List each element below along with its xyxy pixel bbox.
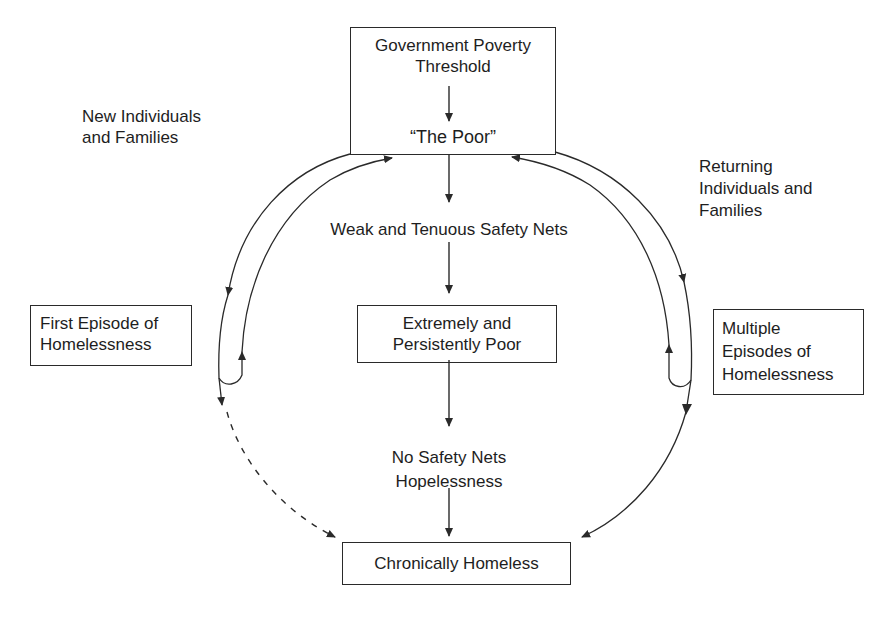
new-entrants-label: New Individuals and Families <box>82 106 201 148</box>
extremely-poor-line1: Extremely and <box>357 313 557 334</box>
chronically-homeless-label: Chronically Homeless <box>342 553 571 574</box>
loop-first-episode <box>219 295 242 384</box>
the-poor-label: “The Poor” <box>350 127 556 148</box>
poverty-threshold-line2: Threshold <box>350 56 556 77</box>
arrowhead-right-down <box>682 404 692 415</box>
arrow-poor-to-multiple-episodes <box>555 152 684 282</box>
returning-entrants-line2: Individuals and <box>699 178 812 200</box>
returning-entrants-label: Returning Individuals and Families <box>699 156 812 222</box>
extremely-poor-line2: Persistently Poor <box>357 334 557 355</box>
returning-entrants-line3: Families <box>699 200 812 222</box>
right-outer-continuation <box>684 282 692 380</box>
first-episode-label: First Episode of Homelessness <box>40 313 158 355</box>
multiple-episodes-line3: Homelessness <box>722 363 834 386</box>
multiple-episodes-line2: Episodes of <box>722 340 834 363</box>
extremely-poor-label: Extremely and Persistently Poor <box>357 313 557 355</box>
no-safety-nets-label: No Safety Nets Hopelessness <box>340 446 558 494</box>
multiple-episodes-line1: Multiple <box>722 317 834 340</box>
new-entrants-line2: and Families <box>82 127 201 148</box>
new-entrants-line1: New Individuals <box>82 106 201 127</box>
poverty-threshold-label: Government Poverty Threshold <box>350 35 556 77</box>
arrow-first-episode-to-chronic <box>227 412 335 537</box>
no-safety-nets-line2: Hopelessness <box>340 470 558 494</box>
first-episode-line1: First Episode of <box>40 313 158 334</box>
first-episode-line2: Homelessness <box>40 334 158 355</box>
returning-entrants-line1: Returning <box>699 156 812 178</box>
weak-safety-nets-label: Weak and Tenuous Safety Nets <box>300 219 598 240</box>
multiple-episodes-label: Multiple Episodes of Homelessness <box>722 317 834 386</box>
loop-multiple-episodes <box>669 345 691 387</box>
arrow-multiple-episodes-to-chronic <box>582 380 691 537</box>
no-safety-nets-line1: No Safety Nets <box>340 446 558 470</box>
poverty-threshold-line1: Government Poverty <box>350 35 556 56</box>
